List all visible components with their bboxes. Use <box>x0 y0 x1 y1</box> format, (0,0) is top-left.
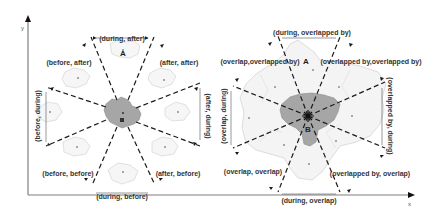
x-axis-arrow-icon <box>408 192 415 198</box>
label-during-overlap: (during, overlap) <box>281 197 336 205</box>
region-a-top-right <box>148 68 176 88</box>
left-diagram: A ( <box>34 35 212 201</box>
right-diagram: B A <box>220 29 422 205</box>
y-axis-arrow-icon <box>25 15 31 22</box>
label-before-before: (before, before) <box>42 170 93 178</box>
label-after-before: (after, before) <box>156 170 201 178</box>
diagram-canvas: y x A <box>0 0 438 223</box>
label-after-after: (after, after) <box>160 59 199 67</box>
label-overlap-overlap: (overlap, overlap) <box>224 168 282 176</box>
label-overlap-overlapped-by: (overlap,overlapped by) <box>221 58 300 66</box>
label-overlapped-by-during: (overlapped by, during) <box>386 77 394 154</box>
label-overlapped-by-overlapped-by: (overlapped by,overlapped by) <box>320 58 421 66</box>
center-dot <box>122 112 124 114</box>
label-before-during: (before, during) <box>34 90 42 142</box>
y-axis-label: y <box>21 25 24 31</box>
label-during-after: (during, after) <box>99 35 145 43</box>
x-axis-label: x <box>408 201 411 207</box>
label-after-during: (after, during) <box>204 93 212 138</box>
label-overlapped-by-overlap: (overlapped by, overlap) <box>330 170 410 178</box>
region-a-label: A <box>120 49 126 58</box>
region-a-bottom <box>108 163 138 184</box>
region-a-top-left <box>62 68 90 88</box>
region-b-label: B <box>305 125 311 134</box>
region-b-marker <box>120 118 124 122</box>
region-a-label: A <box>303 57 309 66</box>
label-before-after: (before, after) <box>46 59 91 67</box>
label-overlap-during: (overlap, during) <box>220 88 228 143</box>
label-during-before: (during, before) <box>96 193 148 201</box>
label-during-overlapped-by: (during, overlapped by) <box>273 29 351 37</box>
